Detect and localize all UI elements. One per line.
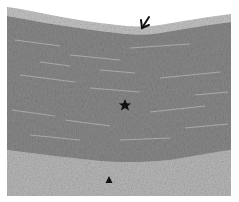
histology-micrograph: [0, 0, 239, 202]
tissue-section: [0, 0, 239, 202]
arrow-down-left-icon: [141, 17, 149, 28]
